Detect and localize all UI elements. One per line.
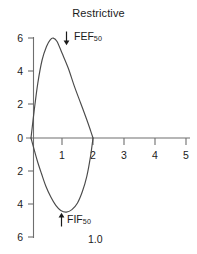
y-tick-label: 6 (17, 32, 23, 44)
x-axis-ticks (62, 138, 186, 145)
fif50-up-arrow-icon (57, 212, 66, 227)
fef50-label-text: FEF (74, 30, 94, 42)
fif50-label: FIF50 (67, 213, 91, 226)
volume-note-label: 1.0 (88, 233, 103, 245)
y-tick-label: 4 (17, 198, 23, 210)
x-tick-label: 1 (59, 149, 65, 161)
chart-title: Restrictive (0, 7, 197, 19)
y-tick-label: 6 (17, 231, 23, 243)
fef50-down-arrow-icon (62, 31, 71, 46)
y-tick-label: 2 (17, 165, 23, 177)
x-tick-label: 3 (121, 149, 127, 161)
x-tick-label: 4 (152, 149, 158, 161)
y-tick-label: 0 (17, 132, 23, 144)
fef50-label: FEF50 (74, 30, 102, 43)
x-axis-tick-labels: 1 2 3 4 5 (59, 149, 189, 161)
x-tick-label: 5 (183, 149, 189, 161)
flow-volume-loop-chart: Restrictive 6 4 2 0 2 4 6 (0, 0, 197, 254)
fif50-label-subscript: 50 (83, 217, 91, 226)
fif50-label-text: FIF (67, 213, 83, 225)
y-tick-label: 2 (17, 98, 23, 110)
y-tick-label: 4 (17, 65, 23, 77)
expiratory-limb-curve (31, 38, 93, 138)
fef50-label-subscript: 50 (94, 34, 102, 43)
y-axis-tick-labels: 6 4 2 0 2 4 6 (17, 32, 23, 243)
